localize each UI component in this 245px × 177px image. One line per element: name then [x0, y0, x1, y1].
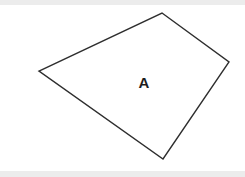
quadrilateral-shape	[39, 13, 229, 159]
geometry-figure: A	[0, 0, 245, 177]
shape-label-a: A	[139, 74, 150, 91]
figure-canvas: A	[0, 0, 245, 177]
